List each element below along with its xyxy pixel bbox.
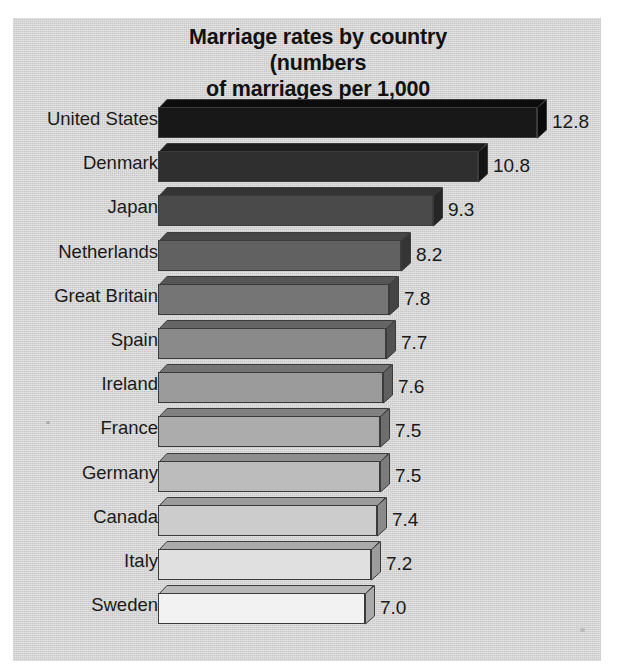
category-label: Ireland bbox=[0, 373, 158, 395]
bar-row: Spain7.7 bbox=[0, 320, 618, 360]
category-label: France bbox=[0, 417, 158, 439]
bar-3d[interactable] bbox=[158, 143, 478, 183]
bar-row: Sweden7.0 bbox=[0, 585, 618, 625]
bar-side-face bbox=[433, 187, 442, 227]
bar-row: Denmark10.8 bbox=[0, 143, 618, 183]
bar-side-face bbox=[401, 232, 410, 272]
category-label: Denmark bbox=[0, 152, 158, 174]
bar-3d[interactable] bbox=[158, 276, 389, 316]
bar-side-face bbox=[371, 541, 380, 581]
chart-figure: Marriage rates by country (numbers of ma… bbox=[0, 0, 618, 672]
bar-front-face bbox=[158, 461, 380, 492]
bar-value-label: 12.8 bbox=[552, 111, 589, 133]
bar-value-label: 7.4 bbox=[392, 509, 418, 531]
bar-value-label: 7.6 bbox=[398, 376, 424, 398]
bar-3d[interactable] bbox=[158, 320, 386, 360]
bar-front-face bbox=[158, 195, 433, 226]
bar-3d[interactable] bbox=[158, 541, 371, 581]
bar-front-face bbox=[158, 107, 537, 138]
bar-row: Canada7.4 bbox=[0, 497, 618, 537]
bar-value-label: 10.8 bbox=[493, 155, 530, 177]
bar-row: Ireland7.6 bbox=[0, 364, 618, 404]
bar-value-label: 7.2 bbox=[386, 553, 412, 575]
category-label: Japan bbox=[0, 196, 158, 218]
category-label: Germany bbox=[0, 462, 158, 484]
bar-3d[interactable] bbox=[158, 187, 433, 227]
bar-side-face bbox=[537, 99, 546, 139]
bar-front-face bbox=[158, 593, 365, 624]
bar-side-face bbox=[386, 320, 395, 360]
category-label: Great Britain bbox=[0, 285, 158, 307]
bar-value-label: 7.7 bbox=[401, 332, 427, 354]
bar-side-face bbox=[389, 276, 398, 316]
category-label: Sweden bbox=[0, 594, 158, 616]
bar-value-label: 7.5 bbox=[395, 420, 421, 442]
bar-side-face bbox=[365, 585, 374, 625]
bar-front-face bbox=[158, 284, 389, 315]
category-label: Spain bbox=[0, 329, 158, 351]
bar-3d[interactable] bbox=[158, 99, 537, 139]
bar-side-face bbox=[380, 408, 389, 448]
bar-value-label: 9.3 bbox=[448, 199, 474, 221]
bar-row: United States12.8 bbox=[0, 99, 618, 139]
bar-front-face bbox=[158, 240, 401, 271]
bar-3d[interactable] bbox=[158, 497, 377, 537]
category-label: Canada bbox=[0, 506, 158, 528]
bar-3d[interactable] bbox=[158, 232, 401, 272]
bar-side-face bbox=[383, 364, 392, 404]
bar-front-face bbox=[158, 549, 371, 580]
category-label: United States bbox=[0, 108, 158, 130]
bar-row: Italy7.2 bbox=[0, 541, 618, 581]
bar-side-face bbox=[380, 453, 389, 493]
bar-value-label: 7.5 bbox=[395, 465, 421, 487]
bar-row: France7.5 bbox=[0, 408, 618, 448]
bar-front-face bbox=[158, 151, 478, 182]
bar-value-label: 7.0 bbox=[380, 597, 406, 619]
bar-chart-plot-area: United States12.8Denmark10.8Japan9.3Neth… bbox=[0, 0, 618, 672]
bar-row: Netherlands8.2 bbox=[0, 232, 618, 272]
bar-value-label: 7.8 bbox=[404, 288, 430, 310]
bar-3d[interactable] bbox=[158, 364, 383, 404]
bar-front-face bbox=[158, 372, 383, 403]
bar-row: Germany7.5 bbox=[0, 453, 618, 493]
bar-front-face bbox=[158, 328, 386, 359]
bar-side-face bbox=[377, 497, 386, 537]
bar-3d[interactable] bbox=[158, 453, 380, 493]
bar-3d[interactable] bbox=[158, 585, 365, 625]
bar-side-face bbox=[478, 143, 487, 183]
bar-3d[interactable] bbox=[158, 408, 380, 448]
category-label: Netherlands bbox=[0, 241, 158, 263]
bar-row: Great Britain7.8 bbox=[0, 276, 618, 316]
category-label: Italy bbox=[0, 550, 158, 572]
bar-front-face bbox=[158, 505, 377, 536]
bar-front-face bbox=[158, 416, 380, 447]
bar-row: Japan9.3 bbox=[0, 187, 618, 227]
bar-value-label: 8.2 bbox=[416, 244, 442, 266]
